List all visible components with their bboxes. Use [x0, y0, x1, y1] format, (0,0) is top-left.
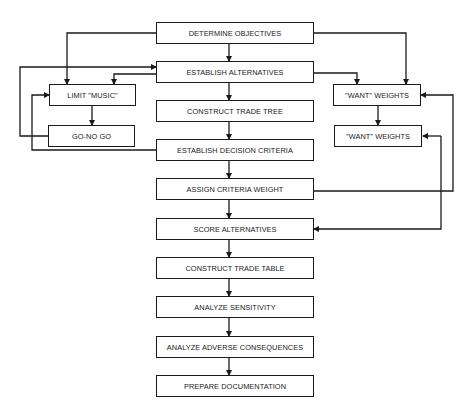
- box-label: ANALYZE SENSITIVITY: [194, 303, 275, 312]
- box-label: PREPARE DOCUMENTATION: [184, 382, 286, 391]
- box-label: "WANT" WEIGHTS: [346, 132, 410, 141]
- construct-trade-table-box: CONSTRUCT TRADE TABLE: [156, 257, 314, 279]
- score-alternatives-box: SCORE ALTERNATIVES: [156, 218, 314, 240]
- construct-trade-tree-box: CONSTRUCT TRADE TREE: [156, 100, 314, 122]
- prepare-documentation-box: PREPARE DOCUMENTATION: [156, 375, 314, 397]
- analyze-adverse-consequences-box: ANALYZE ADVERSE CONSEQUENCES: [156, 336, 314, 358]
- go-no-go-box: GO-NO GO: [48, 125, 135, 147]
- box-label: ESTABLISH ALTERNATIVES: [186, 68, 283, 77]
- box-label: CONSTRUCT TRADE TABLE: [185, 264, 284, 273]
- determine-objectives-box: DETERMINE OBJECTIVES: [156, 22, 314, 44]
- box-label: ANALYZE ADVERSE CONSEQUENCES: [167, 343, 303, 352]
- box-label: ASSIGN CRITERIA WEIGHT: [187, 185, 284, 194]
- box-label: GO-NO GO: [72, 132, 111, 141]
- box-label: SCORE ALTERNATIVES: [193, 225, 276, 234]
- want-weights-box-2: "WANT" WEIGHTS: [334, 125, 422, 147]
- box-label: LIMIT "MUSIC": [67, 91, 118, 100]
- want-weights-box-1: "WANT" WEIGHTS: [333, 84, 421, 106]
- analyze-sensitivity-box: ANALYZE SENSITIVITY: [156, 296, 314, 318]
- establish-decision-criteria-box: ESTABLISH DECISION CRITERIA: [156, 139, 314, 161]
- establish-alternatives-box: ESTABLISH ALTERNATIVES: [156, 61, 314, 83]
- box-label: CONSTRUCT TRADE TREE: [187, 107, 283, 116]
- box-label: ESTABLISH DECISION CRITERIA: [177, 146, 293, 155]
- trade-study-flowchart: DETERMINE OBJECTIVES ESTABLISH ALTERNATI…: [0, 0, 468, 414]
- box-label: DETERMINE OBJECTIVES: [189, 29, 282, 38]
- assign-criteria-weight-box: ASSIGN CRITERIA WEIGHT: [156, 178, 314, 200]
- limit-music-box: LIMIT "MUSIC": [49, 84, 136, 106]
- box-label: "WANT" WEIGHTS: [345, 91, 409, 100]
